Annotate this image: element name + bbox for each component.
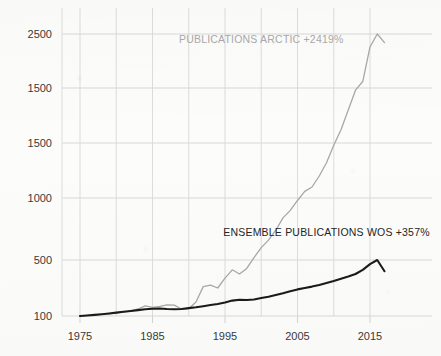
series-line-wos <box>80 260 385 316</box>
x-axis-tick-marks <box>80 316 370 323</box>
x-tick-label: 1995 <box>213 330 237 342</box>
x-tick-label: 2015 <box>358 330 382 342</box>
y-tick-label: 500 <box>34 254 52 266</box>
chart-container: 2500150015001000500100 19751985199520052… <box>0 0 441 356</box>
y-tick-label: 2500 <box>28 28 52 40</box>
y-tick-label: 100 <box>34 310 52 322</box>
x-tick-label: 1985 <box>140 330 164 342</box>
x-tick-label: 2005 <box>285 330 309 342</box>
y-tick-label: 1500 <box>28 82 52 94</box>
wos-label: ENSEMBLE PUBLICATIONS WOS +357% <box>223 226 429 238</box>
x-axis-tick-labels: 19751985199520052015 <box>68 330 382 342</box>
arctic-label: PUBLICATIONS ARCTIC +2419% <box>179 33 344 45</box>
series-lines <box>80 34 385 316</box>
grid-lines <box>62 8 432 316</box>
y-tick-label: 1000 <box>28 192 52 204</box>
x-tick-label: 1975 <box>68 330 92 342</box>
series-annotations: PUBLICATIONS ARCTIC +2419%ENSEMBLE PUBLI… <box>179 33 430 239</box>
y-tick-label: 1500 <box>28 137 52 149</box>
series-line-arctic <box>80 34 385 316</box>
y-axis-tick-labels: 2500150015001000500100 <box>28 28 52 322</box>
line-chart: 2500150015001000500100 19751985199520052… <box>0 0 441 356</box>
